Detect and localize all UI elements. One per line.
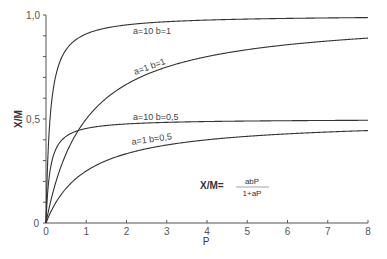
x-tick-label: 3 [164, 226, 170, 237]
curve-label-a10-b05: a=10 b=0,5 [133, 112, 179, 122]
x-tick-label: 7 [325, 226, 331, 237]
y-tick-label-05: 0,5 [26, 114, 40, 125]
x-tick-label: 1 [83, 226, 89, 237]
formula-lhs: X/M= [200, 180, 224, 191]
axes [46, 15, 368, 223]
langmuir-chart: 1,0 0,5 0 012345678 P X/M a=10 b=1 a=1 b… [0, 0, 387, 259]
formula-denominator: 1+aP [243, 189, 262, 198]
formula: X/M= abP 1+aP [200, 177, 269, 198]
curves [46, 18, 368, 223]
x-tick-label: 6 [285, 226, 291, 237]
x-tick-label: 0 [43, 226, 49, 237]
curve-a-1-b-0-5 [46, 131, 368, 223]
curve-label-a10-b1: a=10 b=1 [133, 26, 171, 36]
x-tick-label: 5 [244, 226, 250, 237]
x-axis-title: P [203, 236, 210, 247]
curve-a-1-b-1 [46, 38, 368, 223]
x-tick-label: 8 [365, 226, 371, 237]
formula-numerator: abP [245, 177, 259, 186]
curve-a-10-b-0-5 [46, 120, 368, 223]
y-tick-label-1: 1,0 [26, 10, 40, 21]
y-axis-title: X/M [13, 110, 24, 128]
y-tick-label-0: 0 [33, 218, 39, 229]
x-tick-label: 2 [124, 226, 130, 237]
